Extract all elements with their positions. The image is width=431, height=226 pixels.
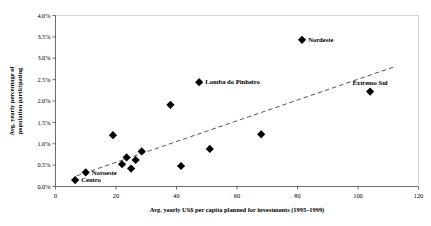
y-axis-tick-label: 0.0%	[37, 183, 51, 190]
x-axis-title: Avg. yearly US$ per capita planned for i…	[150, 206, 325, 214]
data-point-label: Lomba do Pinheiro	[205, 78, 260, 85]
data-point-marker	[82, 168, 90, 176]
x-axis-tick-label: 0	[54, 192, 57, 199]
data-point-marker	[177, 162, 185, 170]
data-point-marker	[127, 164, 135, 172]
x-axis-tick-label: 120	[414, 192, 423, 199]
scatter-chart: 0.0%0.5%1.0%1.5%2.0%2.5%3.0%3.5%4.0%0204…	[0, 0, 431, 226]
data-point-marker	[206, 145, 214, 153]
data-point-marker	[132, 156, 140, 164]
y-axis-tick-label: 2.5%	[37, 76, 51, 83]
x-axis-tick-label: 80	[294, 192, 300, 199]
x-axis-tick-label: 100	[353, 192, 362, 199]
data-point-label: Noroeste	[92, 169, 117, 176]
x-axis-tick-label: 40	[173, 192, 179, 199]
data-point-marker	[195, 78, 203, 86]
data-point-label: Nordeste	[308, 36, 333, 43]
y-axis-tick-label: 1.0%	[37, 140, 51, 147]
data-point-marker	[257, 130, 265, 138]
data-point-label: Extremo Sul	[352, 79, 387, 86]
data-point-marker	[138, 147, 146, 155]
data-point-marker	[366, 87, 374, 95]
data-point-marker	[122, 153, 130, 161]
y-axis-tick-label: 0.5%	[37, 161, 51, 168]
y-axis-tick-label: 1.5%	[37, 119, 51, 126]
x-axis-tick-label: 20	[113, 192, 119, 199]
y-axis-tick-label: 2.0%	[37, 97, 51, 104]
data-point-marker	[298, 36, 306, 44]
data-point-marker	[118, 160, 126, 168]
y-axis-title-line2: population participating	[16, 67, 23, 134]
y-axis-tick-label: 3.0%	[37, 54, 51, 61]
y-axis-title-line1: Avg. yearly percentage of	[8, 66, 15, 136]
data-point-marker	[71, 176, 79, 184]
chart-canvas: 0.0%0.5%1.0%1.5%2.0%2.5%3.0%3.5%4.0%0204…	[0, 0, 431, 226]
y-axis-tick-label: 4.0%	[37, 12, 51, 19]
y-axis-tick-label: 3.5%	[37, 33, 51, 40]
data-point-marker	[166, 101, 174, 109]
data-point-marker	[109, 131, 117, 139]
data-point-label: Centro	[81, 176, 101, 183]
x-axis-tick-label: 60	[234, 192, 240, 199]
